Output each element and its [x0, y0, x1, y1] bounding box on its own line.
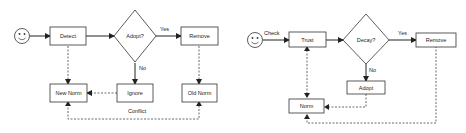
node-remove[interactable]: Remove: [181, 27, 218, 45]
diagram-norm-trust: Trust Decay? Remove Adopt Norm Check Yes…: [248, 14, 457, 123]
decision-label: Adopt?: [126, 33, 143, 39]
edge-label-check: Check: [264, 30, 280, 36]
node-new-norm-label: New Norm: [56, 90, 82, 96]
diagram-norm-detection: Detect Adopt? Remove New Norm Ignore Old…: [15, 10, 219, 119]
node-remove-label: Remove: [189, 33, 209, 39]
node-adopt-label: Adopt: [359, 85, 374, 91]
node-adopt-decision[interactable]: Adopt?: [114, 10, 156, 62]
node-trust-label: Trust: [301, 37, 314, 43]
node-ignore[interactable]: Ignore: [117, 84, 153, 102]
node-decay-decision[interactable]: Decay?: [343, 14, 389, 64]
node-remove[interactable]: Remove: [416, 33, 456, 47]
edge-label-yes: Yes: [398, 30, 407, 36]
decision-label: Decay?: [357, 37, 376, 43]
edge-label-no: No: [369, 67, 376, 73]
edge-label-no: No: [139, 65, 146, 71]
diagram-canvas: Detect Adopt? Remove New Norm Ignore Old…: [0, 0, 466, 133]
edge-label-conflict: Conflict: [128, 108, 147, 114]
node-norm[interactable]: Norm: [289, 99, 324, 113]
node-old-norm[interactable]: Old Norm: [182, 84, 217, 102]
node-old-norm-label: Old Norm: [188, 90, 212, 96]
node-detect-label: Detect: [60, 33, 76, 39]
node-remove-label: Remove: [426, 37, 446, 43]
edge-adopt-norm: [328, 94, 366, 107]
arrowhead: [324, 104, 329, 110]
arrowhead: [304, 114, 310, 119]
node-detect[interactable]: Detect: [50, 27, 86, 45]
edge-label-yes: Yes: [160, 26, 169, 32]
node-adopt[interactable]: Adopt: [347, 81, 385, 94]
node-ignore-label: Ignore: [127, 90, 143, 96]
node-norm-label: Norm: [300, 103, 314, 109]
smiley-face-icon: [15, 29, 30, 44]
node-trust[interactable]: Trust: [289, 32, 326, 47]
arrowhead: [304, 93, 310, 98]
node-new-norm[interactable]: New Norm: [50, 84, 87, 102]
smiley-face-icon: [248, 33, 263, 48]
